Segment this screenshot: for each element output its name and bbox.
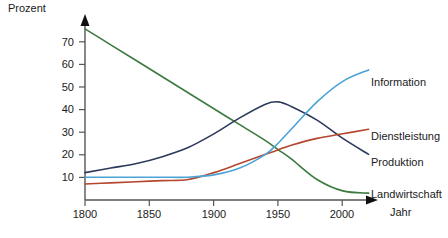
x-axis-title: Jahr (390, 206, 411, 218)
y-tick-label-30: 30 (48, 126, 74, 138)
line-chart: Prozent Jahr 10 20 30 40 50 60 70 1800 1… (0, 0, 448, 238)
x-tick-label-1850: 1850 (129, 208, 169, 220)
y-tick-label-60: 60 (48, 58, 74, 70)
series-label-dienstleistung: Dienstleistung (371, 130, 440, 142)
series-label-information: Information (371, 76, 426, 88)
x-tick-label-1900: 1900 (194, 208, 234, 220)
y-tick-label-40: 40 (48, 103, 74, 115)
series-label-produktion: Produktion (371, 156, 424, 168)
y-tick-label-70: 70 (48, 36, 74, 48)
y-axis-title: Prozent (8, 2, 46, 14)
y-tick-label-10: 10 (48, 171, 74, 183)
series-label-landwirtschaft: Landwirtschaft (371, 188, 442, 200)
y-axis-ticks (79, 42, 85, 178)
y-axis-arrow-icon (81, 14, 90, 26)
x-axis-ticks (85, 200, 342, 206)
y-tick-label-50: 50 (48, 81, 74, 93)
x-tick-label-1800: 1800 (65, 208, 105, 220)
series-line-dienstleistung (85, 129, 369, 184)
series-line-information (85, 70, 369, 177)
x-tick-label-2000: 2000 (322, 208, 362, 220)
y-tick-label-20: 20 (48, 148, 74, 160)
x-tick-label-1950: 1950 (258, 208, 298, 220)
